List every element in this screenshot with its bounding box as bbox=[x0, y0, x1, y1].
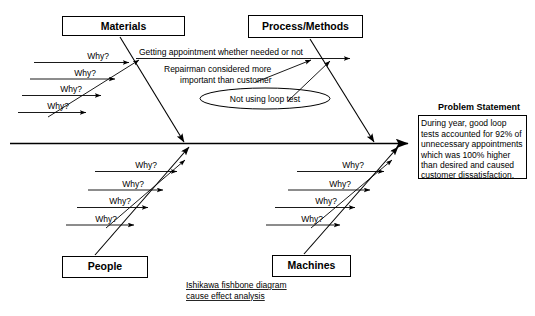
why-label-machines-4: Why? bbox=[301, 214, 323, 224]
why-label-people-3: Why? bbox=[109, 196, 131, 206]
category-label-process-methods: Process/Methods bbox=[262, 20, 349, 32]
why-chain-machines bbox=[311, 160, 392, 228]
problem-statement-line-4: which was 100% higher bbox=[420, 150, 510, 160]
why-label-machines-3: Why? bbox=[315, 196, 337, 206]
why-label-machines-1: Why? bbox=[342, 160, 364, 170]
why-label-materials-3: Why? bbox=[60, 84, 82, 94]
problem-statement-title: Problem Statement bbox=[438, 102, 520, 112]
cause-text-appointment: Getting appointment whether needed or no… bbox=[139, 47, 304, 57]
branch-machines: Why? Why? Why? Why? Machines bbox=[266, 147, 398, 277]
caption-line-2: cause effect analysis bbox=[186, 291, 265, 301]
why-label-people-2: Why? bbox=[122, 179, 144, 189]
diagram-caption: Ishikawa fishbone diagram cause effect a… bbox=[186, 280, 287, 301]
problem-statement-line-2: tests accounted for 92% of bbox=[421, 129, 522, 139]
branch-people: Why? Why? Why? Why? People bbox=[63, 147, 190, 278]
problem-statement-line-6: customer dissatisfaction. bbox=[421, 170, 514, 180]
why-chain-people bbox=[106, 160, 185, 228]
fishbone-svg: Why? Why? Why? Why? Materials Getting ap… bbox=[0, 0, 535, 316]
why-label-people-4: Why? bbox=[95, 214, 117, 224]
problem-statement-line-5: than desired and caused bbox=[421, 160, 514, 170]
branch-materials: Why? Why? Why? Why? Materials bbox=[18, 17, 185, 143]
problem-statement-line-1: During year, good loop bbox=[421, 118, 507, 128]
fishbone-diagram-canvas: Why? Why? Why? Why? Materials Getting ap… bbox=[0, 0, 535, 316]
category-label-materials: Materials bbox=[101, 20, 147, 32]
branch-line-process-methods bbox=[310, 39, 374, 142]
problem-statement: Problem Statement During year, good loop… bbox=[419, 102, 527, 180]
why-label-machines-2: Why? bbox=[329, 179, 351, 189]
cause-text-loop-test: Not using loop test bbox=[230, 94, 301, 104]
category-label-machines: Machines bbox=[288, 259, 336, 271]
cause-text-repairman-1: Repairman considered more bbox=[164, 64, 272, 74]
why-label-materials-4: Why? bbox=[47, 101, 69, 111]
problem-statement-line-3: unnecessary appointments bbox=[421, 139, 523, 149]
category-label-people: People bbox=[88, 260, 123, 272]
why-label-people-1: Why? bbox=[135, 160, 157, 170]
why-label-materials-1: Why? bbox=[87, 51, 109, 61]
why-label-materials-2: Why? bbox=[74, 68, 96, 78]
caption-line-1: Ishikawa fishbone diagram bbox=[186, 280, 287, 290]
cause-text-repairman-2: important than customer bbox=[180, 75, 272, 85]
